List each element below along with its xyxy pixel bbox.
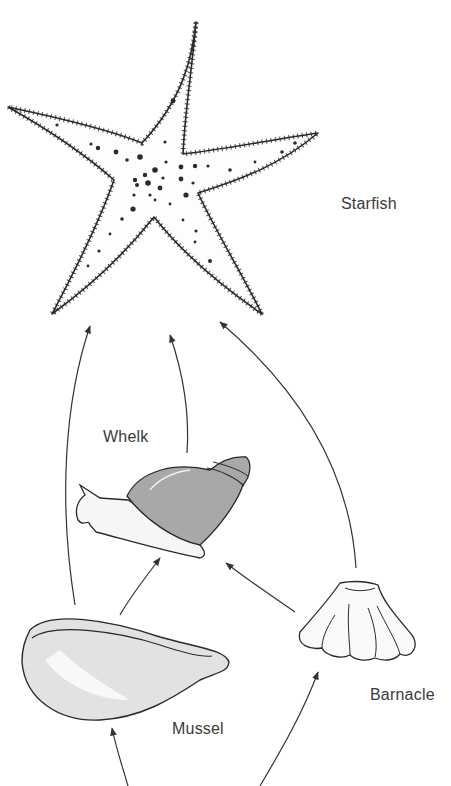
starfish-label: Starfish — [341, 195, 397, 213]
arrow-barnacle-to-starfish — [220, 322, 356, 568]
whelk-illustration — [76, 457, 249, 558]
arrow-barnacle-to-whelk — [226, 563, 295, 612]
arrow-mussel-to-starfish — [66, 326, 90, 605]
arrow-mussel-to-whelk — [120, 558, 160, 615]
barnacle-label: Barnacle — [370, 686, 435, 704]
arrow-whelk-to-starfish — [170, 335, 188, 453]
mussel-illustration — [22, 619, 229, 720]
arrow-source-to-mussel — [112, 728, 128, 786]
food-web-diagram — [0, 0, 451, 786]
arrow-source-to-barnacle — [260, 672, 318, 786]
starfish-illustration — [8, 22, 318, 314]
mussel-label: Mussel — [172, 720, 224, 738]
whelk-label: Whelk — [103, 428, 148, 446]
barnacle-illustration — [299, 582, 415, 661]
